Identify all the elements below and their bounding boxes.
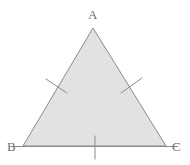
- triangle-shape: [23, 28, 166, 146]
- triangle-diagram: A B C: [0, 0, 190, 165]
- vertex-label-c: C: [172, 140, 181, 153]
- vertex-label-a: A: [88, 8, 97, 21]
- vertex-label-b: B: [7, 140, 16, 153]
- triangle-svg: [0, 0, 190, 165]
